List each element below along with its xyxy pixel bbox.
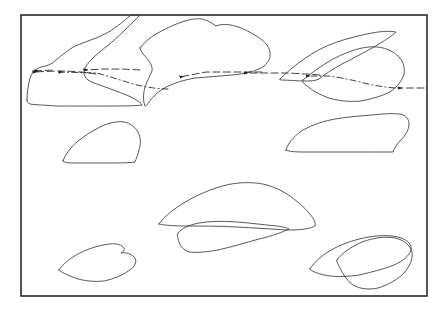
figure-root	[0, 0, 445, 310]
flow-arrow-6	[306, 76, 395, 88]
landmass-bottom-right-b	[337, 237, 412, 289]
map-drawing-canvas	[0, 0, 445, 310]
landmass-upper-center	[140, 19, 270, 106]
landmass-center-lower-a	[159, 183, 315, 230]
landmass-upper-left	[27, 15, 142, 106]
flow-arrow-2	[84, 69, 140, 70]
landmass-mid-right	[286, 114, 409, 152]
flow-arrow-group	[33, 69, 424, 89]
landmass-group	[27, 15, 412, 289]
landmass-bottom-right-a	[310, 236, 411, 277]
map-border	[21, 15, 427, 296]
flow-arrow-feeder-left	[35, 70, 52, 71]
landmass-bottom-left	[59, 244, 136, 282]
landmass-upper-right-b	[303, 47, 405, 102]
flow-arrow-5	[244, 73, 320, 75]
landmass-mid-left	[63, 122, 140, 163]
flow-arrow-3	[59, 72, 168, 89]
